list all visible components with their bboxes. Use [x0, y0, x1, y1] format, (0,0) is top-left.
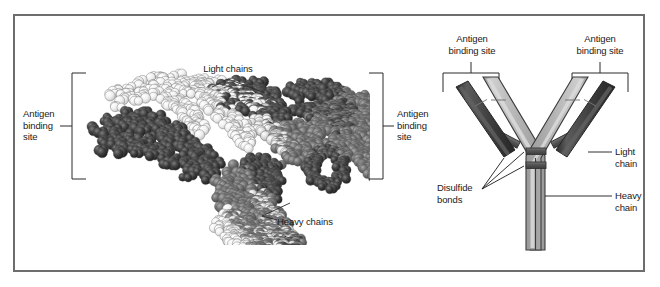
- label-antigen-binding-site-schematic-right: Antigen binding site: [564, 33, 636, 56]
- figure-antibody-structure: Antigen binding site Antigen binding sit…: [0, 0, 660, 287]
- label-antigen-binding-site-schematic-left: Antigen binding site: [436, 33, 508, 56]
- label-light-chains: Light chains: [193, 63, 263, 75]
- label-antigen-binding-site-model-left: Antigen binding site: [23, 108, 61, 143]
- label-heavy-chains: Heavy chains: [277, 216, 349, 228]
- label-disulfide-bonds: Disulfide bonds: [437, 182, 487, 205]
- label-antigen-binding-site-model-right: Antigen binding site: [397, 108, 439, 143]
- label-light-chain: Light chain: [615, 146, 655, 169]
- label-heavy-chain: Heavy chain: [615, 190, 655, 213]
